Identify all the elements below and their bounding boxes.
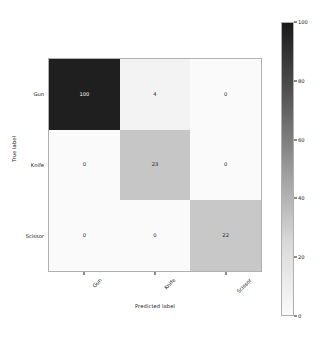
matrix-cell-value: 22 — [222, 233, 229, 238]
matrix-cell-value: 0 — [153, 233, 156, 238]
matrix-cell-value: 0 — [83, 162, 86, 167]
colorbar-tick-label: 60 — [298, 137, 305, 143]
colorbar-tick-label: 100 — [298, 19, 308, 25]
colorbar-tick-label: 40 — [298, 195, 305, 201]
colorbar-tick-label: 80 — [298, 78, 305, 84]
colorbar-tick-mark — [294, 22, 297, 23]
matrix-cell-value: 100 — [79, 92, 89, 97]
matrix-cell-value: 0 — [224, 162, 227, 167]
matrix-cell-value: 0 — [83, 233, 86, 238]
y-axis-tick-label: Knife — [4, 162, 44, 168]
x-axis-tick-mark — [83, 272, 84, 275]
matrix-cell-value: 0 — [224, 92, 227, 97]
colorbar-tick-label: 0 — [298, 313, 301, 319]
matrix-cell-value: 4 — [153, 92, 156, 97]
x-axis-tick-label: Scissor — [236, 277, 253, 294]
colorbar-gradient — [282, 23, 293, 315]
x-axis-tick-mark — [155, 272, 156, 275]
y-axis-tick-label: Gun — [4, 91, 44, 97]
x-axis-tick-label: Knife — [163, 277, 177, 291]
colorbar-tick-mark — [294, 198, 297, 199]
matrix-cell: 0 — [49, 200, 120, 271]
matrix-cell: 0 — [49, 130, 120, 201]
matrix-cell: 0 — [190, 130, 261, 201]
x-axis-tick-mark — [226, 272, 227, 275]
colorbar-tick-mark — [294, 316, 297, 317]
matrix-cell: 23 — [120, 130, 191, 201]
y-axis-tick-label: Scissor — [4, 233, 44, 239]
colorbar-tick-label: 20 — [298, 254, 305, 260]
x-axis-tick-label: Gun — [91, 277, 103, 289]
matrix-cell: 0 — [190, 59, 261, 130]
matrix-grid: 1004002300022 — [48, 58, 262, 272]
colorbar — [281, 22, 294, 316]
confusion-matrix-figure: True label GunKnifeScissor 1004002300022… — [0, 0, 320, 338]
matrix-cell: 4 — [120, 59, 191, 130]
matrix-cell: 0 — [120, 200, 191, 271]
colorbar-tick-mark — [294, 139, 297, 140]
y-axis-tick-group: GunKnifeScissor — [4, 0, 44, 338]
matrix-cell: 22 — [190, 200, 261, 271]
matrix-cell-value: 23 — [152, 162, 159, 167]
matrix-cell: 100 — [49, 59, 120, 130]
colorbar-tick-mark — [294, 257, 297, 258]
colorbar-tick-mark — [294, 80, 297, 81]
x-axis-label: Predicted label — [48, 303, 262, 309]
